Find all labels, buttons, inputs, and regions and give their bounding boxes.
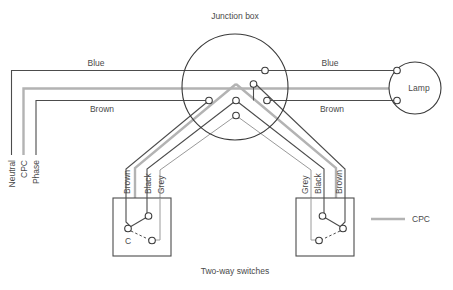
left-switch-grey-internal	[155, 198, 160, 240]
lamp-label: Lamp	[408, 83, 430, 93]
left-blue-label: Blue	[87, 58, 104, 68]
right-switch-terminal-l2	[316, 237, 323, 244]
left-switch-alt-blade-dashed	[131, 231, 150, 240]
right-switch-internals	[324, 198, 345, 227]
jb-terminal-switched-live	[250, 81, 257, 88]
junction-box-terminals	[206, 67, 271, 119]
right-cable-label-brown: Brown	[334, 170, 344, 194]
right-brown-label: Brown	[320, 104, 344, 114]
two-way-lighting-circuit-diagram: Junction box Blue Brown Blue Brown Lamp …	[0, 0, 453, 290]
left-switch-box	[113, 198, 171, 256]
left-brown-wire	[126, 101, 209, 199]
supply-label-cpc: CPC	[19, 160, 29, 178]
supply-wire-group	[12, 71, 266, 156]
left-switch-blade	[130, 217, 147, 227]
lamp-wire-group	[254, 71, 397, 101]
wiring-diagram-canvas: Junction box Blue Brown Blue Brown Lamp …	[0, 0, 453, 290]
jb-terminal-strapper-grey	[233, 112, 240, 119]
left-cable-label-brown: Brown	[122, 170, 132, 194]
jb-terminal-phase	[206, 97, 213, 104]
right-cable-label-grey: Grey	[300, 175, 310, 194]
jb-terminal-strapper-black	[233, 97, 240, 104]
diagram-caption: Two-way switches	[201, 266, 270, 276]
right-switch-cable-group	[236, 82, 345, 198]
right-brown-drop	[341, 198, 345, 226]
left-grey-drop	[155, 198, 160, 240]
supply-label-neutral: Neutral	[7, 160, 17, 188]
right-grey-drop	[311, 198, 316, 240]
left-switch-terminal-l1	[145, 213, 152, 220]
left-switch-terminal-common	[125, 225, 132, 232]
right-cable-label-black: Black	[313, 172, 323, 194]
cpc-legend-label: CPC	[412, 214, 430, 224]
left-switch-grey-strapper-group	[160, 116, 236, 199]
right-switch-terminal-common	[340, 225, 347, 232]
right-switch-blade	[324, 217, 341, 227]
right-switch-terminal-l1	[319, 213, 326, 220]
left-brown-drop	[126, 198, 130, 226]
lamp-terminal-live	[394, 97, 401, 104]
right-switch-grey-internal	[311, 198, 316, 240]
neutral-supply-wire	[12, 71, 266, 156]
left-grey-wire	[160, 116, 236, 199]
lamp-terminal-neutral	[394, 67, 401, 74]
jb-terminal-brown-out	[264, 97, 271, 104]
supply-label-phase: Phase	[31, 160, 41, 184]
left-cable-label-grey: Grey	[156, 175, 166, 194]
left-switch-internals	[126, 198, 147, 227]
jb-terminal-neutral	[262, 67, 269, 74]
left-brown-label: Brown	[90, 104, 114, 114]
left-switch-common-label: C	[125, 236, 131, 246]
right-switch-alt-blade-dashed	[321, 231, 340, 240]
junction-box-label: Junction box	[211, 11, 259, 21]
left-cable-label-black: Black	[143, 172, 153, 194]
right-blue-label: Blue	[321, 58, 338, 68]
left-switch-terminal-l2	[149, 237, 156, 244]
junction-box-circle	[182, 34, 288, 140]
